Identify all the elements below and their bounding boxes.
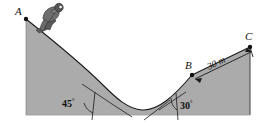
angle-label-left: 45° xyxy=(62,98,74,109)
point-label-b: B xyxy=(185,60,192,71)
angle-left-degree-symbol: ° xyxy=(72,98,74,104)
point-label-c: C xyxy=(245,31,252,42)
figure-canvas xyxy=(0,0,277,126)
point-marker-c xyxy=(248,45,252,49)
skier-icon xyxy=(36,3,63,33)
angle-left-value: 45 xyxy=(62,98,72,109)
angle-label-right: 30° xyxy=(180,100,192,111)
angle-right-degree-symbol: ° xyxy=(190,100,192,106)
point-marker-a xyxy=(24,17,28,21)
point-marker-b xyxy=(190,73,194,77)
skier-goggles xyxy=(59,5,63,9)
angle-right-value: 30 xyxy=(180,100,190,111)
ski-jump-figure: A B C 45° 30° 30 m xyxy=(0,0,277,126)
point-label-a: A xyxy=(15,6,22,17)
